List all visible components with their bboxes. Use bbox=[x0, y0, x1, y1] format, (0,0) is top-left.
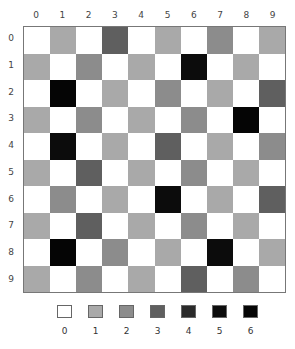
heatmap-cell bbox=[102, 133, 128, 160]
heatmap-cell bbox=[102, 54, 128, 81]
heatmap-cell bbox=[155, 213, 181, 240]
heatmap-cell bbox=[24, 160, 50, 187]
heatmap-cell bbox=[76, 160, 102, 187]
x-tick-label: 7 bbox=[207, 10, 233, 20]
heatmap-cell bbox=[102, 186, 128, 213]
heatmap-cell bbox=[128, 160, 154, 187]
heatmap-cell bbox=[24, 27, 50, 54]
y-tick-label: 3 bbox=[6, 113, 16, 123]
heatmap-cell bbox=[128, 54, 154, 81]
legend-label: 1 bbox=[88, 326, 103, 336]
heatmap-cell bbox=[181, 27, 207, 54]
heatmap-cell bbox=[259, 27, 285, 54]
legend-label: 3 bbox=[150, 326, 165, 336]
legend-swatch bbox=[212, 305, 227, 318]
heatmap-cell bbox=[233, 54, 259, 81]
heatmap-cell bbox=[233, 133, 259, 160]
heatmap-cell bbox=[233, 186, 259, 213]
y-tick-label: 2 bbox=[6, 87, 16, 97]
heatmap-cell bbox=[259, 133, 285, 160]
heatmap-cell bbox=[181, 107, 207, 134]
y-tick-label: 9 bbox=[6, 274, 16, 284]
heatmap-cell bbox=[24, 266, 50, 293]
x-tick-label: 2 bbox=[76, 10, 102, 20]
heatmap-cell bbox=[207, 27, 233, 54]
legend-label: 5 bbox=[212, 326, 227, 336]
heatmap-cell bbox=[181, 133, 207, 160]
heatmap-cell bbox=[233, 213, 259, 240]
heatmap-cell bbox=[24, 80, 50, 107]
heatmap-cell bbox=[233, 80, 259, 107]
heatmap-cell bbox=[207, 186, 233, 213]
heatmap-cell bbox=[76, 266, 102, 293]
heatmap-cell bbox=[181, 160, 207, 187]
heatmap-cell bbox=[102, 266, 128, 293]
heatmap-cell bbox=[24, 133, 50, 160]
legend-swatch bbox=[181, 305, 196, 318]
heatmap-cell bbox=[233, 160, 259, 187]
legend-swatch bbox=[119, 305, 134, 318]
heatmap-cell bbox=[207, 80, 233, 107]
y-tick-label: 1 bbox=[6, 60, 16, 70]
heatmap-cell bbox=[155, 239, 181, 266]
x-tick-label: 9 bbox=[260, 10, 286, 20]
heatmap-cell bbox=[102, 239, 128, 266]
heatmap-cell bbox=[128, 186, 154, 213]
heatmap-cell bbox=[207, 266, 233, 293]
legend-swatch bbox=[88, 305, 103, 318]
heatmap-cell bbox=[181, 54, 207, 81]
legend-swatch bbox=[243, 305, 258, 318]
heatmap-cell bbox=[50, 54, 76, 81]
heatmap-cell bbox=[181, 213, 207, 240]
x-tick-label: 0 bbox=[23, 10, 49, 20]
heatmap-cell bbox=[128, 107, 154, 134]
heatmap-cell bbox=[181, 239, 207, 266]
x-tick-label: 3 bbox=[102, 10, 128, 20]
heatmap-cell bbox=[76, 27, 102, 54]
heatmap-cell bbox=[128, 266, 154, 293]
legend-label: 4 bbox=[181, 326, 196, 336]
heatmap-cell bbox=[50, 239, 76, 266]
heatmap-cell bbox=[259, 186, 285, 213]
y-tick-label: 8 bbox=[6, 247, 16, 257]
heatmap-cell bbox=[155, 133, 181, 160]
heatmap-cell bbox=[24, 213, 50, 240]
heatmap-cell bbox=[24, 239, 50, 266]
legend-label: 0 bbox=[57, 326, 72, 336]
heatmap-cell bbox=[259, 160, 285, 187]
heatmap-cell bbox=[102, 27, 128, 54]
heatmap-cell bbox=[181, 186, 207, 213]
heatmap-cell bbox=[102, 213, 128, 240]
heatmap-cell bbox=[128, 27, 154, 54]
x-tick-label: 4 bbox=[128, 10, 154, 20]
heatmap-cell bbox=[76, 107, 102, 134]
heatmap-cell bbox=[128, 80, 154, 107]
x-tick-label: 8 bbox=[233, 10, 259, 20]
heatmap-cell bbox=[181, 266, 207, 293]
heatmap-cell bbox=[155, 107, 181, 134]
heatmap-cell bbox=[233, 266, 259, 293]
heatmap-cell bbox=[50, 27, 76, 54]
heatmap-cell bbox=[207, 54, 233, 81]
heatmap-cell bbox=[102, 80, 128, 107]
heatmap-cell bbox=[259, 54, 285, 81]
heatmap-cell bbox=[76, 213, 102, 240]
y-tick-label: 4 bbox=[6, 140, 16, 150]
heatmap-cell bbox=[207, 160, 233, 187]
heatmap-cell bbox=[207, 133, 233, 160]
legend-label: 6 bbox=[243, 326, 258, 336]
heatmap-cell bbox=[155, 186, 181, 213]
y-tick-label: 7 bbox=[6, 220, 16, 230]
heatmap-cell bbox=[259, 213, 285, 240]
heatmap-cell bbox=[76, 80, 102, 107]
heatmap-cell bbox=[24, 54, 50, 81]
heatmap-cell bbox=[24, 186, 50, 213]
heatmap-cell bbox=[128, 133, 154, 160]
heatmap-cell bbox=[76, 186, 102, 213]
heatmap-cell bbox=[259, 80, 285, 107]
legend-swatch bbox=[57, 305, 72, 318]
y-tick-label: 5 bbox=[6, 167, 16, 177]
heatmap-cell bbox=[233, 107, 259, 134]
heatmap-cell bbox=[50, 266, 76, 293]
heatmap-cell bbox=[259, 107, 285, 134]
